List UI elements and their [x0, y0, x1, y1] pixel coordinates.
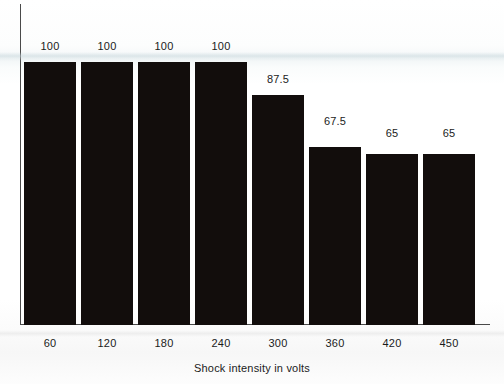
bar-value-label: 65 [423, 127, 475, 139]
x-tick-label: 420 [366, 337, 418, 349]
y-axis-line [20, 4, 21, 325]
bar-240 [195, 62, 247, 325]
x-tick-label: 180 [138, 337, 190, 349]
bar-60 [24, 62, 76, 325]
bar-450 [423, 154, 475, 325]
x-tick-label: 360 [309, 337, 361, 349]
bar-180 [138, 62, 190, 325]
x-tick-label: 120 [81, 337, 133, 349]
x-tick-label: 60 [24, 337, 76, 349]
x-tick-label: 240 [195, 337, 247, 349]
bar-300 [252, 95, 304, 325]
bar-chart-figure: 100 100 100 100 87.5 67.5 65 65 60 120 1… [0, 0, 504, 384]
bar-value-label: 100 [81, 40, 133, 52]
plot-area: 100 100 100 100 87.5 67.5 65 65 60 120 1… [0, 0, 504, 384]
x-tick-label: 450 [423, 337, 475, 349]
bar-420 [366, 154, 418, 325]
x-axis-title: Shock intensity in volts [0, 362, 504, 374]
bar-value-label: 100 [138, 40, 190, 52]
bar-value-label: 65 [366, 127, 418, 139]
x-tick-label: 300 [252, 337, 304, 349]
bar-120 [81, 62, 133, 325]
bar-value-label: 87.5 [252, 73, 304, 85]
bar-value-label: 100 [24, 40, 76, 52]
bar-value-label: 67.5 [309, 115, 361, 127]
bar-value-label: 100 [195, 40, 247, 52]
bar-360 [309, 147, 361, 325]
